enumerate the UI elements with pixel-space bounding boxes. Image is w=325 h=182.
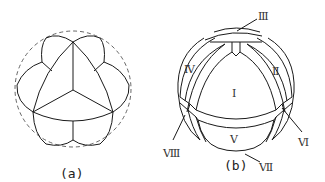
- figure-b: Ⅲ Ⅱ Ⅳ Ⅰ Ⅴ Ⅵ Ⅶ Ⅷ (b): [162, 10, 309, 174]
- face-i-bottom-edge: [196, 110, 276, 119]
- diagram-canvas: (a): [0, 0, 325, 182]
- face-ii-inner: [247, 44, 287, 101]
- label-vii: Ⅶ: [258, 161, 273, 174]
- label-vi: Ⅵ: [297, 136, 309, 149]
- face-i-right-edge: [240, 52, 276, 110]
- lobe-bottom-right: [73, 112, 113, 145]
- leader-vi: [282, 108, 302, 132]
- label-i: Ⅰ: [232, 87, 236, 100]
- lobe-top-right: [73, 36, 105, 62]
- lobe-top-left: [42, 36, 74, 62]
- band-left-outer: [187, 44, 225, 112]
- caption-b: (b): [224, 158, 247, 173]
- figure-a: (a): [15, 31, 131, 181]
- band-right-outer: [247, 44, 285, 112]
- central-face-bottom-edge: [33, 112, 113, 121]
- lobe-right: [104, 62, 129, 112]
- label-viii: Ⅷ: [162, 147, 180, 160]
- outline-top: [214, 28, 260, 32]
- face-v-top-band: [198, 120, 274, 128]
- label-v: Ⅴ: [229, 133, 239, 146]
- face-i-left-edge: [196, 52, 232, 110]
- lobe-top-right-seam: [94, 62, 104, 71]
- face-iii-notch: [232, 42, 240, 56]
- lobe-bottom-left: [33, 112, 73, 145]
- label-iv: Ⅳ: [184, 63, 196, 76]
- lobe-top-left-seam: [42, 62, 52, 71]
- caption-a: (a): [60, 166, 83, 181]
- label-iii: Ⅲ: [258, 10, 269, 23]
- lobe-left: [17, 62, 42, 112]
- label-ii: Ⅱ: [272, 65, 279, 78]
- leader-viii: [173, 115, 185, 140]
